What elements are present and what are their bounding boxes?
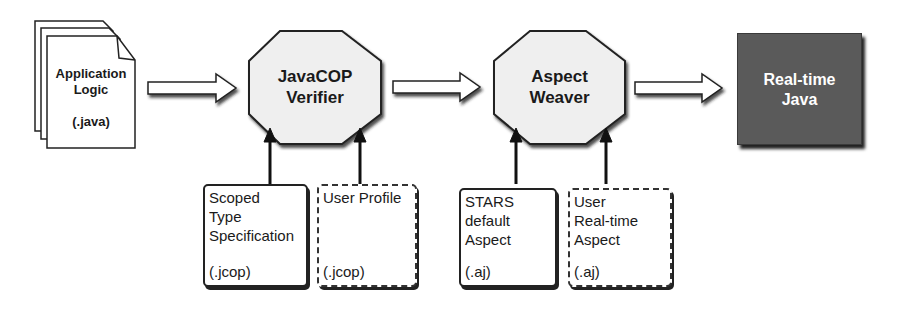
block-arrow-3: [635, 74, 722, 102]
spec-line: Scoped: [209, 188, 302, 207]
source-extension: (.java): [47, 114, 135, 130]
spec-line: Aspect: [465, 230, 551, 249]
user-profile-box: User Profile (.jcop): [317, 184, 417, 287]
verifier-label-line1: JavaCOP: [249, 66, 381, 87]
scoped-type-spec-box: Scoped Type Specification (.jcop): [203, 184, 308, 287]
weaver-label: Aspect Weaver: [494, 66, 625, 108]
spec-extension: (.aj): [574, 262, 600, 281]
source-title-line2: Logic: [47, 82, 135, 98]
realtime-java-label: Real-time Java: [738, 70, 861, 110]
verifier-label-line2: Verifier: [249, 87, 381, 108]
verifier-label: JavaCOP Verifier: [249, 66, 381, 108]
spec-line: User Profile: [323, 188, 411, 207]
spec-line: default: [465, 211, 551, 230]
spec-line: Specification: [209, 226, 302, 245]
spec-extension: (.jcop): [209, 262, 251, 281]
realtime-java-line2: Java: [738, 90, 861, 110]
block-arrow-1: [148, 74, 236, 102]
spec-line: Aspect: [574, 230, 666, 249]
spec-line: Type: [209, 207, 302, 226]
source-title: Application Logic: [47, 66, 135, 99]
spec-extension: (.aj): [465, 262, 491, 281]
source-title-line1: Application: [47, 66, 135, 82]
stars-default-aspect-box: STARS default Aspect (.aj): [459, 188, 557, 287]
spec-line: STARS: [465, 192, 551, 211]
user-realtime-aspect-box: User Real-time Aspect (.aj): [568, 188, 672, 287]
weaver-label-line1: Aspect: [494, 66, 625, 87]
realtime-java-box: Real-time Java: [737, 33, 862, 145]
spec-line: Real-time: [574, 211, 666, 230]
spec-extension: (.jcop): [323, 262, 365, 281]
weaver-label-line2: Weaver: [494, 87, 625, 108]
realtime-java-line1: Real-time: [738, 70, 861, 90]
spec-line: User: [574, 192, 666, 211]
block-arrow-2: [393, 73, 480, 101]
